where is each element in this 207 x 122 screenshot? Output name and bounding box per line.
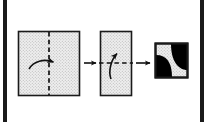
diagram-canvas: [0, 0, 207, 122]
step-2-group: [99, 32, 133, 96]
paper-folding-diagram: [0, 0, 207, 122]
step-1-group: [19, 32, 80, 96]
step-3-group: [156, 44, 188, 78]
figure-layer: [0, 0, 207, 122]
